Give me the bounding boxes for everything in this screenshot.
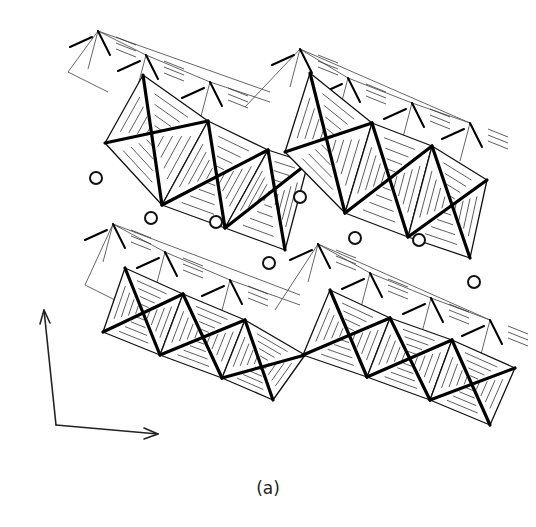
upper-layer xyxy=(68,31,508,258)
vertical-axis-arrow xyxy=(44,310,56,425)
ion-circle xyxy=(468,276,480,288)
crystal-structure-figure xyxy=(0,0,536,527)
ion-circle xyxy=(145,212,157,224)
ion-circle xyxy=(294,191,306,203)
ion-circle xyxy=(349,232,361,244)
ion-circle xyxy=(263,257,275,269)
ion-circle xyxy=(413,234,425,246)
figure-caption: (a) xyxy=(0,478,536,498)
horizontal-axis-arrow xyxy=(56,425,158,434)
ion-circle xyxy=(90,172,102,184)
octahedral-chain xyxy=(105,75,308,250)
ion-circle xyxy=(210,216,222,228)
octahedral-chain xyxy=(103,268,305,400)
octahedral-chain xyxy=(285,73,487,258)
